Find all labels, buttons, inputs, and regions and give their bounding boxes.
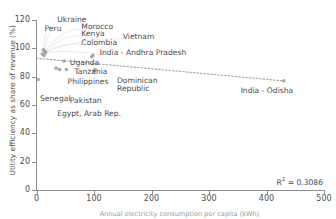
y-tick-mark bbox=[32, 20, 36, 21]
data-point bbox=[40, 52, 44, 56]
point-label: Pakistan bbox=[70, 96, 102, 105]
label-leader-line bbox=[44, 44, 83, 53]
data-point bbox=[42, 48, 46, 52]
data-point bbox=[65, 68, 69, 72]
y-tick-label: 20 bbox=[2, 157, 30, 166]
label-leader-line bbox=[44, 36, 83, 53]
data-point bbox=[62, 59, 66, 63]
x-tick-label: 400 bbox=[247, 194, 287, 203]
point-label: Tanzania bbox=[74, 67, 107, 76]
label-leader-line bbox=[44, 30, 47, 52]
label-leader-line bbox=[44, 51, 102, 54]
r-squared-annotation: R2 = 0.3086 bbox=[276, 176, 323, 187]
x-tick-label: 100 bbox=[74, 194, 114, 203]
y-tick-label: 60 bbox=[2, 100, 30, 109]
data-point bbox=[282, 79, 286, 83]
y-tick-mark bbox=[32, 77, 36, 78]
x-tick-label: 500 bbox=[304, 194, 336, 203]
y-tick-mark bbox=[32, 133, 36, 134]
data-point bbox=[54, 66, 58, 70]
data-point bbox=[42, 54, 46, 58]
y-tick-mark bbox=[32, 105, 36, 106]
point-label: Uganda bbox=[70, 58, 99, 67]
point-label: Senegal bbox=[40, 94, 71, 103]
x-axis-title: Annual electricity consumption per capit… bbox=[37, 210, 322, 218]
x-axis-line bbox=[36, 190, 324, 191]
point-label: Colombia bbox=[81, 38, 117, 47]
y-tick-label: 100 bbox=[2, 43, 30, 52]
point-label: Egypt, Arab Rep. bbox=[57, 109, 121, 118]
y-tick-label: 80 bbox=[2, 72, 30, 81]
x-tick-label: 0 bbox=[17, 194, 57, 203]
y-tick-label: 0 bbox=[2, 185, 30, 194]
data-point bbox=[43, 49, 47, 53]
y-tick-mark bbox=[32, 48, 36, 49]
y-tick-mark bbox=[32, 190, 36, 191]
y-tick-label: 40 bbox=[2, 128, 30, 137]
y-tick-mark bbox=[32, 162, 36, 163]
point-label: Philippines bbox=[68, 77, 109, 86]
point-label: India - Andhra Pradesh bbox=[100, 48, 187, 57]
y-tick-label: 120 bbox=[2, 15, 30, 24]
data-point bbox=[58, 68, 62, 72]
point-label: Vietnam bbox=[123, 32, 155, 41]
data-point bbox=[44, 51, 48, 55]
x-tick-label: 300 bbox=[189, 194, 229, 203]
r-squared-value: = 0.3086 bbox=[285, 178, 323, 187]
point-label: India - Odisha bbox=[241, 86, 294, 95]
point-label: Republic bbox=[117, 84, 149, 93]
y-axis-line bbox=[36, 20, 37, 190]
point-label: Peru bbox=[45, 24, 62, 33]
x-tick-label: 200 bbox=[132, 194, 172, 203]
